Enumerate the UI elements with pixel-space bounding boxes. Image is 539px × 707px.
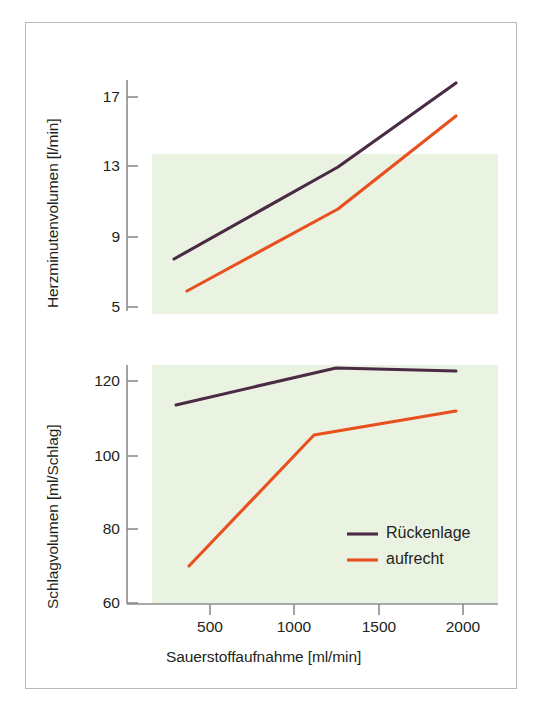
y-axis-title-bottom: Schlagvolumen [ml/Schlag] bbox=[44, 425, 62, 609]
x-tick-label-2000: 2000 bbox=[423, 618, 503, 636]
x-tick-marks-bottom bbox=[210, 604, 463, 615]
bottom-chart-svg bbox=[26, 23, 518, 690]
plot-background-bottom bbox=[152, 365, 498, 603]
y-tick-label-bottom-120: 120 bbox=[66, 372, 120, 390]
chart-panel-bottom: Schlagvolumen [ml/Schlag] 120 100 80 60 … bbox=[26, 23, 516, 688]
legend-label-aufrecht: aufrecht bbox=[386, 550, 444, 568]
y-tick-label-bottom-80: 80 bbox=[66, 520, 120, 538]
y-tick-label-bottom-100: 100 bbox=[66, 447, 120, 465]
x-tick-label-500: 500 bbox=[170, 618, 250, 636]
y-tick-label-bottom-60: 60 bbox=[66, 594, 120, 612]
legend-label-ruckenlage: Rückenlage bbox=[386, 524, 471, 542]
x-tick-label-1000: 1000 bbox=[254, 618, 334, 636]
x-tick-label-1500: 1500 bbox=[339, 618, 419, 636]
figure-frame: Herzminutenvolumen [l/min] 17 13 9 5 bbox=[25, 22, 517, 689]
y-tick-marks-bottom bbox=[127, 381, 138, 603]
x-axis-title: Sauerstoffaufnahme [ml/min] bbox=[166, 648, 361, 666]
